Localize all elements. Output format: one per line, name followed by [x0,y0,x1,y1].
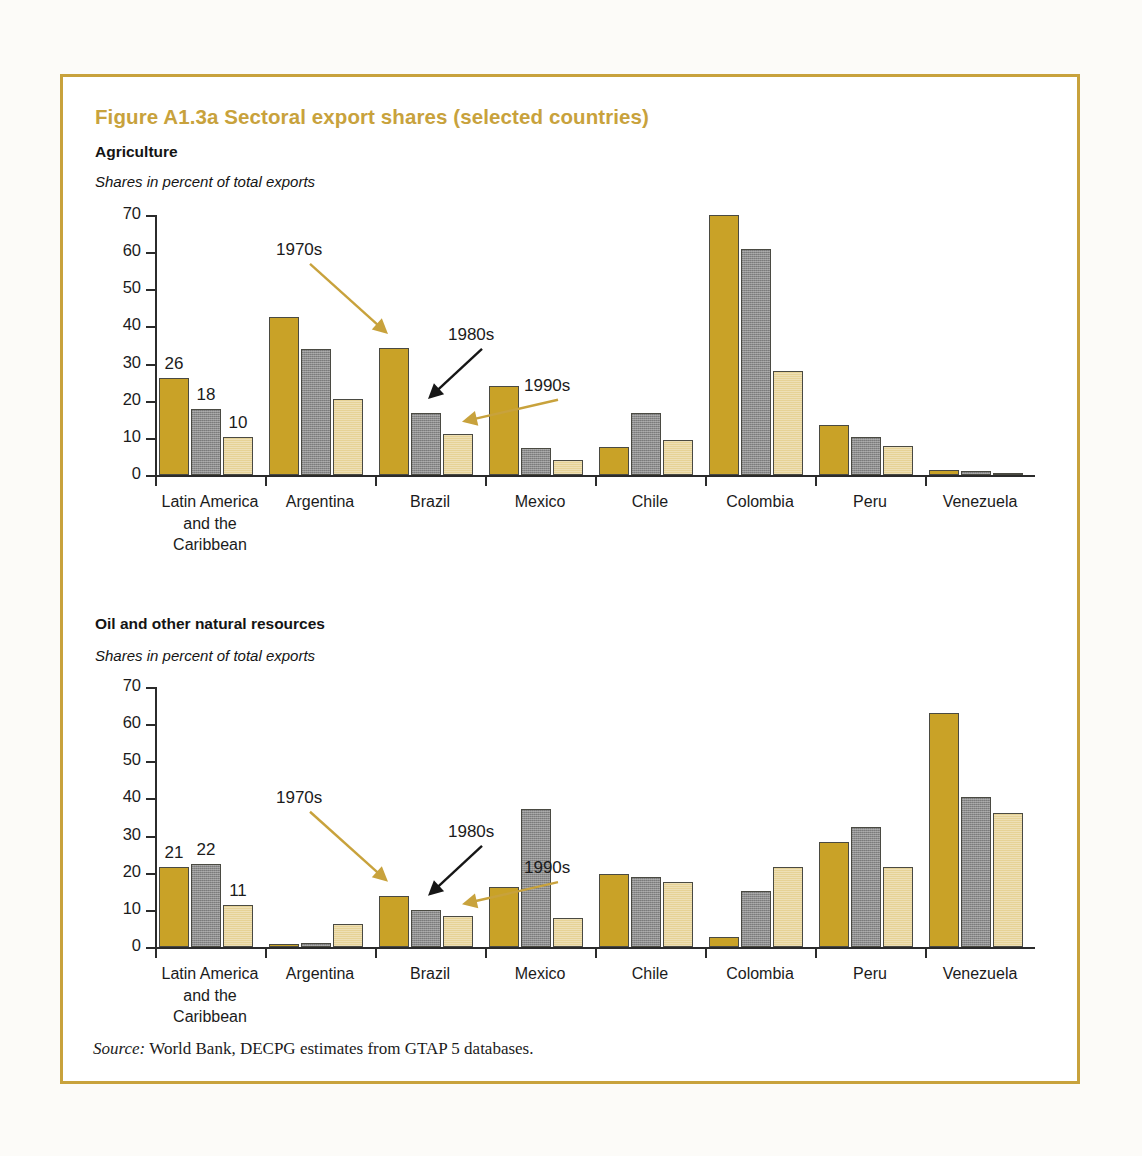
bar[interactable] [961,471,991,475]
bar-value-label: 11 [214,881,262,901]
y-axis-tick [146,438,155,440]
y-axis-tick [146,798,155,800]
bar[interactable] [333,924,363,947]
bar[interactable] [443,434,473,475]
bar[interactable] [663,882,693,947]
bar[interactable] [741,249,771,475]
bar[interactable] [851,827,881,947]
bar[interactable] [961,797,991,947]
bar[interactable] [929,713,959,947]
annotation-label-1990s: 1990s [524,858,570,878]
chart-oil-natural-resources: 010203040506070Latin Americaand theCarib… [93,677,1043,1037]
bar[interactable] [741,891,771,947]
y-axis-tick-label: 20 [99,390,141,409]
y-axis-tick-label: 30 [99,825,141,844]
bar[interactable] [379,896,409,947]
bar[interactable] [269,317,299,475]
bar-value-label: 18 [182,385,230,405]
y-axis-tick [146,687,155,689]
x-axis-category-tick [155,949,157,958]
bar[interactable] [269,944,299,947]
bar[interactable] [631,877,661,947]
bar[interactable] [819,842,849,947]
bar[interactable] [301,349,331,475]
y-axis-line [155,215,157,477]
y-axis-line [155,687,157,949]
x-axis-category-tick [705,477,707,486]
bar[interactable] [191,864,221,947]
x-axis-category-tick [815,949,817,958]
x-axis-category-tick [595,949,597,958]
bar[interactable] [553,460,583,475]
x-axis-category-tick [925,949,927,958]
bar[interactable] [851,437,881,475]
chart-agriculture: 010203040506070Latin Americaand theCarib… [93,205,1043,565]
bar[interactable] [489,887,519,947]
category-label-line: Venezuela [911,963,1049,985]
y-axis-tick [146,761,155,763]
x-axis-category-tick [925,477,927,486]
x-axis-category-tick [815,477,817,486]
y-axis-tick [146,215,155,217]
y-axis-tick-label: 70 [99,676,141,695]
category-label-line: Caribbean [141,1006,279,1028]
source-label: Source: [93,1039,145,1058]
figure-frame: Figure A1.3a Sectoral export shares (sel… [60,74,1080,1084]
bar[interactable] [709,215,739,475]
page-background: Figure A1.3a Sectoral export shares (sel… [0,0,1142,1156]
bar[interactable] [223,437,253,475]
x-axis-category-tick [265,949,267,958]
bar[interactable] [883,867,913,947]
bar[interactable] [993,473,1023,475]
bar[interactable] [223,905,253,947]
bar[interactable] [819,425,849,475]
figure-title: Figure A1.3a Sectoral export shares (sel… [95,105,649,129]
panel-subtitle-oil: Shares in percent of total exports [95,647,315,664]
bar[interactable] [159,867,189,947]
x-axis-category-label: Venezuela [911,491,1049,513]
bar[interactable] [929,470,959,475]
x-axis-category-tick [485,477,487,486]
y-axis-tick-label: 30 [99,353,141,372]
panel-subtitle-agriculture: Shares in percent of total exports [95,173,315,190]
y-axis-tick [146,947,155,949]
bar-value-label: 10 [214,413,262,433]
x-axis-category-tick [375,477,377,486]
annotation-label-1970s: 1970s [276,788,322,808]
annotation-label-1980s: 1980s [448,325,494,345]
bar[interactable] [411,413,441,475]
y-axis-tick-label: 0 [99,936,141,955]
panel-heading-oil: Oil and other natural resources [95,615,325,633]
y-axis-tick-label: 50 [99,750,141,769]
y-axis-tick [146,252,155,254]
bar[interactable] [993,813,1023,947]
bar[interactable] [773,371,803,475]
y-axis-tick-label: 70 [99,204,141,223]
category-label-line: Venezuela [911,491,1049,513]
source-note: Source: World Bank, DECPG estimates from… [93,1039,533,1059]
x-axis-category-tick [265,477,267,486]
bar[interactable] [773,867,803,947]
y-axis-tick-label: 10 [99,427,141,446]
x-axis-category-tick [485,949,487,958]
bar[interactable] [883,446,913,475]
x-axis-category-tick [155,477,157,486]
bar[interactable] [521,448,551,475]
bar[interactable] [599,874,629,947]
bar[interactable] [631,413,661,475]
panel-heading-agriculture: Agriculture [95,143,178,161]
bar[interactable] [379,348,409,475]
bar[interactable] [333,399,363,475]
bar-value-label: 26 [150,354,198,374]
bar[interactable] [553,918,583,947]
bar[interactable] [411,910,441,947]
bar[interactable] [443,916,473,947]
bar[interactable] [301,943,331,947]
y-axis-tick [146,289,155,291]
bar[interactable] [599,447,629,475]
bar[interactable] [663,440,693,475]
bar[interactable] [489,386,519,475]
bar-value-label: 22 [182,840,230,860]
y-axis-tick-label: 60 [99,241,141,260]
bar[interactable] [709,937,739,947]
